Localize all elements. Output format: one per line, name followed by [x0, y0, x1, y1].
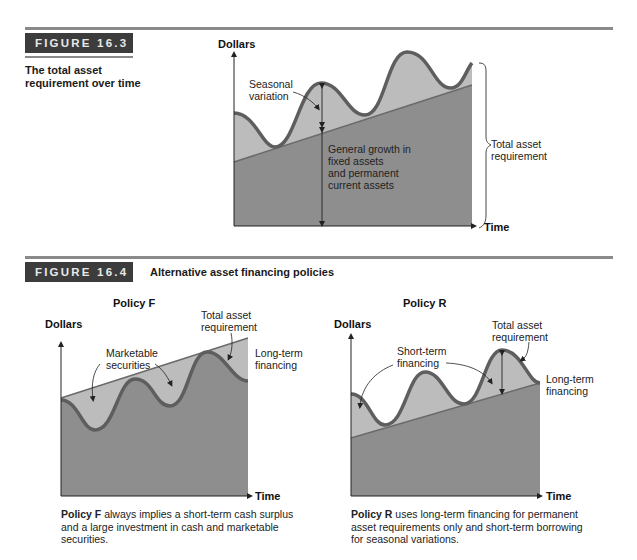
policy-r-x-axis-label: Time — [546, 490, 571, 502]
label-line: Long-term — [255, 347, 303, 359]
total-asset-requirement-label: Total asset requirement — [491, 138, 547, 162]
note-line: Policy R uses long-term financing for pe… — [351, 508, 621, 521]
figure-16-4-title: Alternative asset financing policies — [150, 266, 334, 279]
marketable-securities-label: Marketable securities — [106, 347, 158, 371]
policy-r-y-axis-label: Dollars — [334, 318, 371, 330]
note-line: securities. — [61, 533, 301, 546]
figure-16-4-badge: FIGURE 16.4 — [25, 262, 133, 282]
label-line: securities — [106, 359, 158, 371]
label-line: financing — [255, 359, 303, 371]
note-line: asset requirements only and short-term b… — [351, 521, 621, 534]
label-line: Total asset — [491, 138, 547, 150]
policy-r-long-term-label: Long-term financing — [546, 373, 594, 397]
policy-r-note: Policy R uses long-term financing for pe… — [351, 508, 621, 546]
fig-16-3-x-axis-label: Time — [484, 221, 509, 233]
label-line: and permanent — [328, 167, 411, 179]
label-line: Short-term — [397, 345, 447, 357]
label-line: Total asset — [492, 319, 548, 331]
fig-16-3-y-axis-label: Dollars — [218, 38, 255, 50]
label-line: financing — [397, 357, 447, 369]
label-line: Marketable — [106, 347, 158, 359]
general-growth-label: General growth in fixed assets and perma… — [328, 143, 411, 191]
policy-f-note: Policy F always implies a short-term cas… — [61, 508, 301, 546]
label-line: current assets — [328, 179, 411, 191]
policy-r-total-asset-label: Total asset requirement — [492, 319, 548, 343]
note-line: Policy F always implies a short-term cas… — [61, 508, 301, 521]
label-line: Seasonal — [249, 78, 293, 90]
label-line: Long-term — [546, 373, 594, 385]
seasonal-variation-label: Seasonal variation — [249, 78, 293, 102]
section-rule — [25, 256, 613, 259]
policy-f-long-term-label: Long-term financing — [255, 347, 303, 371]
note-text: always implies a short-term cash surplus — [101, 508, 293, 520]
label-line: variation — [249, 90, 293, 102]
label-line: requirement — [492, 331, 548, 343]
label-line: requirement — [201, 321, 257, 333]
note-line: and a large investment in cash and marke… — [61, 521, 301, 534]
policy-f-total-asset-label: Total asset requirement — [201, 309, 257, 333]
label-line: financing — [546, 385, 594, 397]
note-text: uses long-term financing for permanent — [392, 508, 578, 520]
label-line: General growth in — [328, 143, 411, 155]
label-line: requirement — [491, 150, 547, 162]
label-line: fixed assets — [328, 155, 411, 167]
policy-f-y-axis-label: Dollars — [45, 318, 82, 330]
policy-r-title: Policy R — [403, 297, 446, 309]
label-line: Total asset — [201, 309, 257, 321]
total-asset-brace — [479, 63, 491, 228]
short-term-financing-label: Short-term financing — [397, 345, 447, 369]
policy-f-x-axis-label: Time — [255, 490, 280, 502]
note-bold: Policy R — [351, 508, 392, 520]
note-line: for seasonal variations. — [351, 533, 621, 546]
policy-f-title: Policy F — [113, 297, 155, 309]
note-bold: Policy F — [61, 508, 101, 520]
